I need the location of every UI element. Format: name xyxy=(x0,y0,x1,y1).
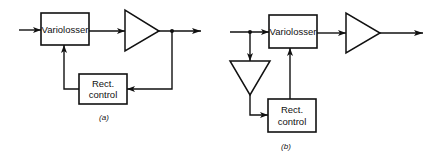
diagram-b: Rect. control Variolosser (b) xyxy=(230,13,423,151)
amplifier-a xyxy=(125,10,159,51)
rect-label-line1-b: Rect. xyxy=(281,104,303,115)
variolosser-label-a: Variolosser xyxy=(42,24,89,35)
caption-b: (b) xyxy=(281,142,291,151)
amplifier-b xyxy=(346,13,380,53)
caption-a: (a) xyxy=(99,113,109,122)
line-to-rect-b xyxy=(250,95,268,115)
rect-label-line2-a: control xyxy=(89,89,118,100)
block-diagrams: Variolosser Rect. control (a) xyxy=(0,0,437,156)
diagram-a: Variolosser Rect. control (a) xyxy=(19,10,201,122)
rect-label-line1-a: Rect. xyxy=(92,78,114,89)
variolosser-label-b: Variolosser xyxy=(270,26,317,37)
rect-label-line2-b: control xyxy=(278,116,307,127)
detector-amplifier-b xyxy=(230,61,270,95)
